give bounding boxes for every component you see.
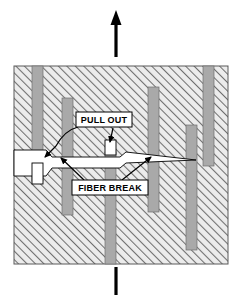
figure-canvas: PULL OUT FIBER BREAK: [0, 0, 241, 295]
fiber-6: [203, 66, 214, 166]
composite-fracture-diagram: PULL OUT FIBER BREAK: [0, 0, 241, 295]
fiber-2: [62, 98, 73, 215]
pull-out-label: PULL OUT: [76, 112, 132, 127]
tensile-load-arrow-up-head: [111, 10, 122, 25]
fiber-5: [186, 125, 197, 250]
fiber-break-label-text: FIBER BREAK: [78, 183, 142, 193]
pull-out-label-text: PULL OUT: [81, 115, 128, 125]
pulled-fiber-center: [105, 140, 116, 155]
pulled-fiber-left: [32, 163, 43, 184]
fiber-4: [148, 87, 159, 212]
fiber-break-label: FIBER BREAK: [72, 180, 148, 195]
fiber-3: [105, 152, 116, 264]
